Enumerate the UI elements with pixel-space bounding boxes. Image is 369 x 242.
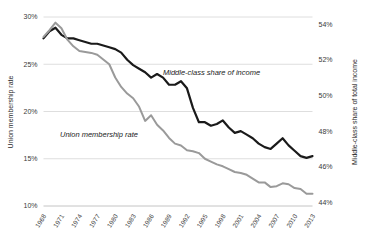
x-axis-tick-label: 2010 (285, 213, 299, 229)
line-chart: 30%25%20%15%10% 54%52%50%48%46%44% 19681… (0, 0, 369, 242)
y-axis-left-tick-label: 25% (23, 61, 37, 68)
y-axis-left-ticks: 30%25%20%15%10% (23, 13, 37, 209)
x-axis-tick-label: 1974 (70, 213, 84, 229)
y-axis-right-tick-label: 46% (319, 163, 333, 170)
y-axis-left-title: Union membership rate (7, 76, 15, 149)
y-axis-right-ticks: 54%52%50%48%46%44% (319, 21, 333, 206)
annotation-middle-class-share: Middle-class share of income (163, 68, 260, 77)
y-axis-right-tick-label: 44% (319, 199, 333, 206)
x-axis-tick-label: 1989 (159, 213, 173, 229)
y-axis-right-tick-label: 50% (319, 92, 333, 99)
x-axis-tick-label: 1968 (34, 213, 48, 229)
y-axis-right-title: Middle-class share of total income (351, 59, 358, 165)
x-axis-tick-label: 1971 (52, 213, 66, 229)
y-axis-right-tick-label: 54% (319, 21, 333, 28)
y-axis-left-tick-label: 30% (23, 13, 37, 20)
series-line (44, 23, 313, 194)
y-axis-right-tick-label: 52% (319, 56, 333, 63)
x-axis-tick-label: 1995 (195, 213, 209, 229)
x-axis-ticks: 1968197119741977198019831986198919921995… (34, 213, 317, 229)
x-axis-tick-label: 2004 (249, 213, 263, 229)
x-axis-tick-label: 1983 (123, 213, 137, 229)
y-axis-left-tick-label: 15% (23, 155, 37, 162)
x-axis-tick-label: 1998 (213, 213, 227, 229)
series-lines (44, 23, 313, 194)
chart-container: 30%25%20%15%10% 54%52%50%48%46%44% 19681… (0, 0, 369, 242)
x-axis-tick-label: 1977 (88, 213, 102, 229)
gridlines (44, 17, 313, 206)
x-axis-tick-label: 2013 (303, 213, 317, 229)
y-axis-left-tick-label: 20% (23, 108, 37, 115)
y-axis-right-tick-label: 48% (319, 128, 333, 135)
annotation-union-membership: Union membership rate (60, 130, 138, 139)
x-axis-tick-label: 1986 (141, 213, 155, 229)
x-axis-tick-label: 2007 (267, 213, 281, 229)
x-axis-tick-label: 1992 (177, 213, 191, 229)
x-axis-tick-label: 2001 (231, 213, 245, 229)
x-axis-tick-label: 1980 (105, 213, 119, 229)
y-axis-left-tick-label: 10% (23, 202, 37, 209)
